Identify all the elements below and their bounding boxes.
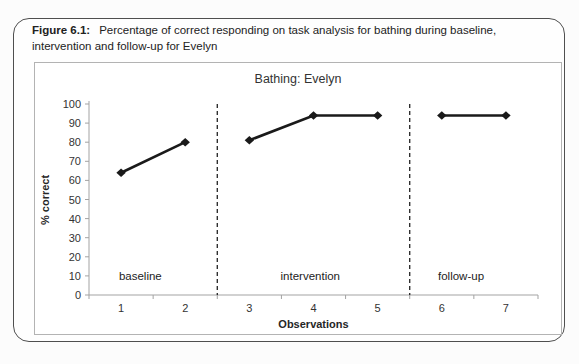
series-line bbox=[121, 142, 185, 173]
y-tick-label: 10 bbox=[69, 270, 81, 282]
y-tick-label: 90 bbox=[69, 117, 81, 129]
y-tick-label: 0 bbox=[75, 289, 81, 301]
y-tick-label: 20 bbox=[69, 251, 81, 263]
data-point-marker bbox=[309, 111, 318, 120]
phase-label: baseline bbox=[119, 270, 162, 282]
data-point-marker bbox=[437, 111, 446, 120]
x-tick-label: 6 bbox=[439, 302, 445, 314]
y-tick-label: 40 bbox=[69, 213, 81, 225]
data-point-marker bbox=[501, 111, 510, 120]
data-point-marker bbox=[116, 168, 125, 177]
y-tick-label: 60 bbox=[69, 174, 81, 186]
phase-label: follow-up bbox=[438, 270, 484, 282]
x-tick-label: 2 bbox=[182, 302, 188, 314]
figure-number: Figure 6.1: bbox=[32, 24, 90, 36]
y-tick-label: 100 bbox=[63, 98, 81, 110]
y-tick-label: 70 bbox=[69, 155, 81, 167]
y-tick-label: 80 bbox=[69, 136, 81, 148]
x-tick-label: 5 bbox=[375, 302, 381, 314]
figure-caption: Figure 6.1:Percentage of correct respond… bbox=[32, 23, 558, 54]
chart-area: Bathing: Evelyn % correct Observations 0… bbox=[34, 62, 562, 335]
x-tick-label: 1 bbox=[118, 302, 124, 314]
figure-frame: Figure 6.1:Percentage of correct respond… bbox=[13, 18, 565, 342]
data-point-marker bbox=[373, 111, 382, 120]
x-tick-label: 7 bbox=[503, 302, 509, 314]
x-tick-label: 3 bbox=[246, 302, 252, 314]
phase-label: intervention bbox=[281, 270, 340, 282]
x-tick-label: 4 bbox=[310, 302, 316, 314]
figure-caption-text: Percentage of correct responding on task… bbox=[32, 24, 496, 52]
y-tick-label: 30 bbox=[69, 232, 81, 244]
data-point-marker bbox=[245, 136, 254, 145]
line-chart-canvas: 01020304050607080901001234567baselineint… bbox=[35, 63, 561, 334]
y-tick-label: 50 bbox=[69, 194, 81, 206]
data-point-marker bbox=[181, 138, 190, 147]
